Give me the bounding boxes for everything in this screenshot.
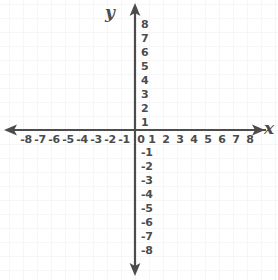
x-tick-label: -7 [34,134,46,145]
y-tick-label: -2 [141,161,153,172]
x-tick-label-origin: 0 [137,134,144,145]
y-tick-label: -6 [141,217,153,228]
y-tick-label: -8 [141,245,153,256]
y-tick-label: -4 [141,189,153,200]
y-axis-label: y [105,4,115,21]
x-tick-label: 6 [218,134,225,145]
y-tick-label: 5 [141,61,148,72]
x-tick-label: 3 [176,134,183,145]
x-tick-label: -4 [76,134,88,145]
x-tick-label: -5 [62,134,74,145]
coordinate-plane: y x -8 -7 -6 -5 -4 -3 -2 -1 0 1 2 3 4 5 … [0,0,278,280]
y-tick-label: 7 [141,33,148,44]
y-tick-label: -7 [141,231,153,242]
y-tick-label: 8 [141,19,148,30]
x-tick-label: -1 [118,134,130,145]
x-tick-label: 2 [162,134,169,145]
x-tick-label: -6 [48,134,60,145]
y-tick-label: -3 [141,175,153,186]
y-tick-label: 4 [141,75,148,86]
x-tick-label: 7 [232,134,239,145]
x-tick-label: 8 [246,134,253,145]
x-tick-label: 1 [148,134,155,145]
x-tick-label: -2 [104,134,116,145]
x-tick-label: -8 [20,134,32,145]
x-tick-label: 4 [190,134,197,145]
y-tick-label: 2 [141,103,148,114]
y-tick-label: 1 [141,117,148,128]
y-tick-label: 3 [141,89,148,100]
x-axis-label: x [264,120,274,137]
y-tick-label: 6 [141,47,148,58]
y-tick-label: -1 [141,147,153,158]
x-tick-label: 5 [204,134,211,145]
y-tick-label: -5 [141,203,153,214]
x-tick-label: -3 [90,134,102,145]
